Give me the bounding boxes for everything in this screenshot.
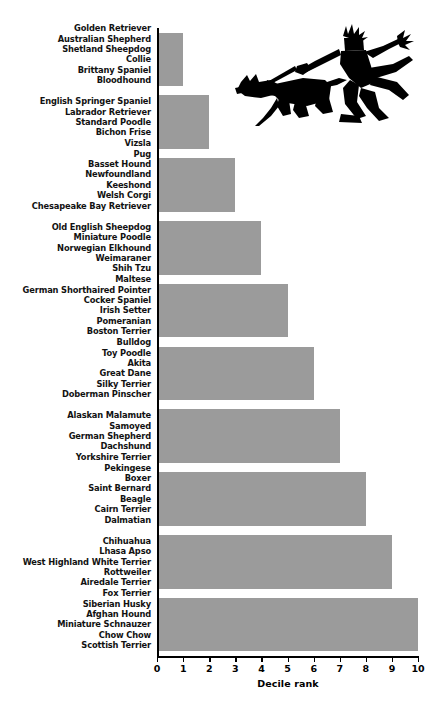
bar-decile-3 (157, 158, 235, 212)
x-tick-label: 4 (251, 663, 271, 674)
bar-decile-9 (157, 535, 392, 589)
bar-decile-6 (157, 347, 314, 401)
bar-row (0, 472, 427, 526)
bar-row (0, 284, 427, 338)
x-tick-label: 1 (173, 663, 193, 674)
x-tick (418, 657, 419, 662)
x-tick-label: 6 (304, 663, 324, 674)
x-tick-label: 0 (147, 663, 167, 674)
x-tick-label: 2 (199, 663, 219, 674)
x-tick (183, 657, 184, 662)
x-axis-title: Decile rank (157, 678, 419, 689)
bar-row (0, 598, 427, 652)
bar-row (0, 221, 427, 275)
x-tick (392, 657, 393, 662)
bar-decile-5 (157, 284, 288, 338)
bar-row (0, 409, 427, 463)
bar-row (0, 535, 427, 589)
dog-walker-icon (233, 22, 427, 126)
decile-rank-bar-chart: Golden RetrieverAustralian ShepherdShetl… (0, 0, 427, 715)
bar-decile-10 (157, 598, 418, 652)
dog-walker-silhouette-illustration (233, 22, 427, 126)
x-tick-label: 3 (225, 663, 245, 674)
x-tick-label: 8 (356, 663, 376, 674)
x-tick (261, 657, 262, 662)
x-tick-label: 5 (278, 663, 298, 674)
x-tick-label: 9 (382, 663, 402, 674)
x-tick-label: 10 (408, 663, 427, 674)
y-axis-line (157, 28, 159, 657)
x-tick (340, 657, 341, 662)
x-tick (209, 657, 210, 662)
bar-decile-2 (157, 95, 209, 149)
x-tick (235, 657, 236, 662)
bar-row (0, 158, 427, 212)
x-tick (157, 657, 158, 662)
x-tick (366, 657, 367, 662)
bar-decile-4 (157, 221, 261, 275)
x-tick (288, 657, 289, 662)
x-tick-label: 7 (330, 663, 350, 674)
x-tick (314, 657, 315, 662)
bar-row (0, 347, 427, 401)
bar-decile-1 (157, 33, 183, 87)
bar-decile-7 (157, 409, 340, 463)
bar-decile-8 (157, 472, 366, 526)
